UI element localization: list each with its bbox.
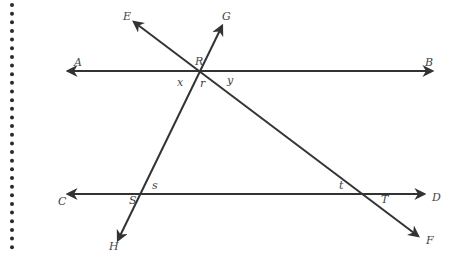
point-label-b: B xyxy=(424,56,433,69)
lines-group xyxy=(68,22,432,240)
margin-dot xyxy=(10,237,14,241)
margin-dot xyxy=(10,185,14,189)
angle-label-x: x xyxy=(177,76,184,89)
point-label-c: C xyxy=(58,195,67,208)
margin-dot xyxy=(10,150,14,154)
margin-dot xyxy=(10,107,14,111)
margin-dot xyxy=(10,167,14,171)
point-label-a: A xyxy=(73,56,82,69)
margin-dot xyxy=(10,176,14,180)
margin-dot xyxy=(10,115,14,119)
point-label-h: H xyxy=(108,240,119,253)
margin-dot xyxy=(10,202,14,206)
margin-dot xyxy=(10,81,14,85)
margin-dot xyxy=(10,3,14,7)
margin-dot xyxy=(10,211,14,215)
margin-dot xyxy=(10,55,14,59)
margin-dot xyxy=(10,133,14,137)
margin-dot xyxy=(10,12,14,16)
margin-dot xyxy=(10,38,14,42)
margin-dot xyxy=(10,141,14,145)
margin-dot xyxy=(10,98,14,102)
margin-dot xyxy=(10,219,14,223)
margin-dot xyxy=(10,159,14,163)
point-label-d: D xyxy=(431,191,441,204)
margin-dots xyxy=(10,3,14,249)
margin-dot xyxy=(10,20,14,24)
margin-dot xyxy=(10,46,14,50)
margin-dot xyxy=(10,90,14,94)
point-label-e: E xyxy=(122,10,131,23)
geometry-diagram: ABCDEFGHRST xryst xyxy=(0,0,459,265)
margin-dot xyxy=(10,72,14,76)
line-gh xyxy=(118,26,222,240)
line-ef xyxy=(134,22,418,236)
margin-dot xyxy=(10,29,14,33)
angle-labels: xryst xyxy=(152,74,344,192)
margin-dot xyxy=(10,124,14,128)
margin-dot xyxy=(10,193,14,197)
point-label-r: R xyxy=(194,55,203,68)
angle-label-s: s xyxy=(152,179,158,192)
point-label-f: F xyxy=(425,234,434,247)
point-labels: ABCDEFGHRST xyxy=(58,10,441,253)
angle-label-y: y xyxy=(226,74,234,87)
point-label-g: G xyxy=(222,10,231,23)
margin-dot xyxy=(10,228,14,232)
margin-dot xyxy=(10,64,14,68)
angle-label-t: t xyxy=(339,179,344,192)
point-label-s: S xyxy=(129,194,137,207)
margin-dot xyxy=(10,245,14,249)
angle-label-r: r xyxy=(200,77,206,90)
